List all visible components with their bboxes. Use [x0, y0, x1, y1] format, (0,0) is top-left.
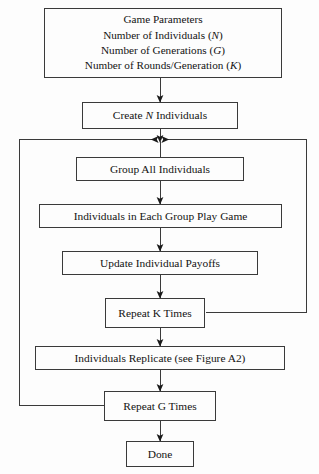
create-individuals-label: Create N Individuals	[113, 108, 207, 122]
done-label: Done	[148, 447, 173, 461]
group-all-individuals-label: Group All Individuals	[110, 162, 210, 176]
play-game-label: Individuals in Each Group Play Game	[74, 209, 248, 223]
node-repeat-g-times: Repeat G Times	[104, 391, 216, 421]
parameters-title: Game Parameters	[123, 12, 202, 27]
node-individuals-replicate: Individuals Replicate (see Figure A2)	[35, 346, 285, 370]
parameters-generations: Number of Generations (G)	[101, 43, 225, 58]
node-update-payoffs: Update Individual Payoffs	[62, 251, 258, 275]
repeat-k-times-label: Repeat K Times	[118, 306, 191, 320]
node-done: Done	[126, 441, 194, 467]
node-create-individuals: Create N Individuals	[82, 102, 238, 129]
individuals-replicate-label: Individuals Replicate (see Figure A2)	[75, 351, 246, 365]
parameters-rounds: Number of Rounds/Generation (K)	[85, 58, 241, 73]
repeat-g-times-label: Repeat G Times	[123, 399, 196, 413]
node-play-game: Individuals in Each Group Play Game	[39, 204, 282, 228]
flowchart-figure: Game Parameters Number of Individuals (N…	[0, 0, 319, 474]
node-game-parameters: Game Parameters Number of Individuals (N…	[44, 8, 282, 78]
parameters-individuals: Number of Individuals (N)	[103, 28, 223, 43]
node-group-all-individuals: Group All Individuals	[76, 157, 244, 181]
node-repeat-k-times: Repeat K Times	[105, 298, 205, 328]
update-payoffs-label: Update Individual Payoffs	[100, 256, 220, 270]
